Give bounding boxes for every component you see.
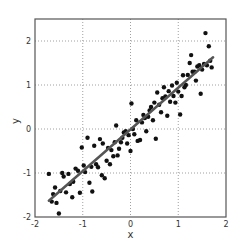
data-point [101,141,105,145]
data-point [144,129,148,133]
data-point [189,53,193,57]
y-axis-label: y [10,118,21,124]
data-point [80,145,84,149]
data-point [129,101,133,105]
y-tick-label: 1 [26,81,31,90]
y-tick-labels: -2-1012 [23,37,31,222]
data-point [57,211,61,215]
data-point [209,65,213,69]
data-point [114,123,118,127]
data-point [173,100,177,104]
data-point [165,114,169,118]
data-point [125,141,129,145]
data-point [178,112,182,116]
data-point [151,118,155,122]
data-point [90,189,94,193]
x-tick-labels: -2-1012 [31,220,229,229]
data-point [54,201,58,205]
y-tick-label: 2 [26,37,31,46]
x-axis-label: x [128,229,134,240]
data-point [194,78,198,82]
data-point [162,85,166,89]
data-point [108,162,112,166]
x-tick-label: -1 [79,220,87,229]
data-point [115,153,119,157]
data-point [207,44,211,48]
data-point [167,89,171,93]
data-point [132,132,136,136]
data-point [64,190,68,194]
data-point [179,94,183,98]
data-point [61,174,65,178]
data-point [92,144,96,148]
data-point [66,172,70,176]
data-point [203,31,207,35]
data-point [128,149,132,153]
y-tick-label: -1 [23,169,31,178]
y-tick-label: 0 [26,125,31,134]
data-point [117,147,121,151]
data-point [181,73,185,77]
data-point [47,172,51,176]
data-point [87,180,91,184]
data-point [78,191,82,195]
scatter-chart: -2-1012 -2-1012 x y [0,0,239,248]
data-point [188,61,192,65]
data-point [154,136,158,140]
data-point [175,81,179,85]
data-point [170,83,174,87]
x-tick-label: 0 [128,220,133,229]
x-tick-label: 2 [223,220,228,229]
data-point [159,110,163,114]
data-point [70,195,74,199]
data-point [82,163,86,167]
y-tick-label: -2 [23,213,31,222]
data-point [138,138,142,142]
data-point [53,185,57,189]
data-point [198,92,202,96]
data-point [103,176,107,180]
data-point [155,90,159,94]
data-point [96,165,100,169]
x-tick-label: 1 [176,220,181,229]
data-point [85,136,89,140]
data-point [98,137,102,141]
data-point [104,158,108,162]
data-point [152,100,156,104]
data-point [111,154,115,158]
x-tick-label: -2 [31,220,39,229]
data-point [168,100,172,104]
